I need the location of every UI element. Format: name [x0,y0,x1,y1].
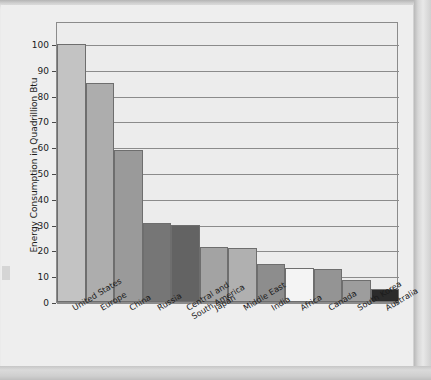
y-tick-label: 30 [23,226,49,227]
plot-area: 1009080706050403020100 [56,22,398,303]
bar-series [57,22,399,302]
y-tick-mark [52,45,56,46]
y-tick-mark [52,303,56,304]
y-tick-label: 20 [23,251,49,252]
y-tick-label: 40 [23,200,49,201]
y-tick-mark [52,148,56,149]
y-tick-label: 90 [23,71,49,72]
bar-chart: Energy Consumption in Quadrillion Btu En… [0,0,414,368]
y-tick-mark [52,71,56,72]
y-tick-mark [52,277,56,278]
bar [86,83,115,302]
page-edge-bottom [0,366,431,380]
y-tick-label: 80 [23,97,49,98]
y-tick-mark [52,226,56,227]
y-tick-label: 0 [23,303,49,304]
y-tick-label: 100 [23,45,49,46]
y-tick-mark [52,251,56,252]
y-tick-label: 60 [23,148,49,149]
bar [143,223,172,302]
y-tick-mark [52,97,56,98]
y-tick-label: 70 [23,122,49,123]
page-edge-right [414,0,431,380]
y-tick-mark [52,122,56,123]
y-tick-label: 50 [23,174,49,175]
y-tick-mark [52,200,56,201]
y-tick-mark [52,174,56,175]
scanned-page-frame: Energy Consumption in Quadrillion Btu En… [0,0,431,380]
bar [171,225,200,302]
bar [57,44,86,302]
y-tick-label: 10 [23,277,49,278]
